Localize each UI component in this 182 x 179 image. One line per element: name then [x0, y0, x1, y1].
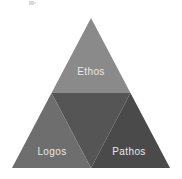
- triangle-label-pathos: Pathos: [112, 146, 146, 157]
- rhetorical-triangle-figure: Ethos Logos Pathos: [0, 0, 182, 179]
- triangle-segment-ethos: [52, 18, 131, 93]
- triangle-label-ethos: Ethos: [77, 66, 105, 77]
- triangle-label-logos: Logos: [37, 146, 66, 157]
- scan-artifact-speck-small: [34, 2, 36, 4]
- triangle-diagram: Ethos Logos Pathos: [0, 0, 182, 179]
